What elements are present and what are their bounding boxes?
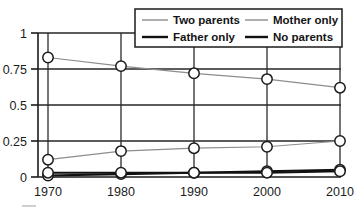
y-tick-label: 0.75 [3,63,27,77]
y-tick-label: 1 [20,27,27,41]
legend-label-two-parents: Two parents [173,14,240,26]
data-point-marker [189,167,199,177]
legend-label-no-parents: No parents [273,31,333,43]
caption-smudge-mark [22,205,36,207]
data-point-marker [43,155,53,165]
series-no-parents [43,166,345,178]
data-point-marker [335,83,345,93]
data-point-marker [335,136,345,146]
legend-label-mother-only: Mother only [273,14,339,26]
y-axis-tick-labels: 1 0.75 0.5 0.25 0 [3,27,27,185]
caption-remnant [22,205,36,207]
line-chart: 1 0.75 0.5 0.25 0 1970 1980 1990 2000 20… [0,0,361,210]
data-point-marker [335,166,345,176]
y-tick-label: 0.5 [10,99,27,113]
y-tick-label: 0 [20,171,27,185]
legend-label-father-only: Father only [173,31,236,43]
data-point-marker [262,142,272,152]
chart-canvas: 1 0.75 0.5 0.25 0 1970 1980 1990 2000 20… [0,0,361,210]
data-point-marker [262,167,272,177]
horizontal-gridlines [38,33,341,141]
x-tick-label: 2010 [326,185,354,199]
x-tick-label: 2000 [253,185,281,199]
y-tick-label: 0.25 [3,135,27,149]
chart-legend: Two parents Mother only Father only No p… [135,9,342,47]
data-point-marker [116,146,126,156]
data-point-marker [262,74,272,84]
data-point-marker [116,61,126,71]
x-tick-label: 1990 [180,185,208,199]
x-tick-label: 1980 [107,185,135,199]
x-axis-tick-labels: 1970 1980 1990 2000 2010 [34,185,354,199]
data-point-marker [189,68,199,78]
data-point-marker [43,52,53,62]
data-point-marker [116,167,126,177]
y-tick-marks [31,33,38,177]
x-tick-label: 1970 [34,185,62,199]
data-point-marker [189,143,199,153]
data-point-marker [43,167,53,177]
